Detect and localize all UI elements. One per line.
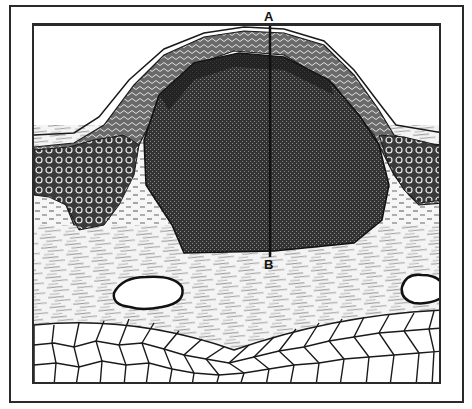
label-b: B [264,258,273,271]
blood-vessel-left [114,277,183,309]
figure-panel [32,23,441,384]
label-a: A [264,10,273,23]
histology-illustration [34,25,441,384]
blood-vessel-right [402,275,441,304]
